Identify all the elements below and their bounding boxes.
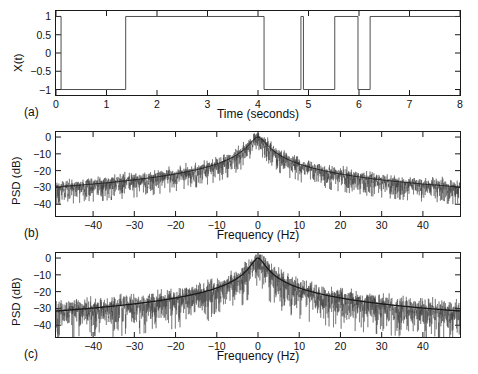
b-ytick-2: −20 [21,166,51,177]
b-xtick-8: 40 [403,220,443,231]
panel-b-psd-trace [56,132,460,216]
panel-a-y-axis-label: X(t) [12,53,24,72]
c-xtick-1: −30 [114,341,154,352]
c-xtick-0: −40 [73,341,113,352]
panel-b-plot-frame [55,131,461,217]
c-ytick-0: −40 [21,320,51,331]
b-ytick-3: −10 [21,149,51,160]
a-ytick-3: 0.5 [21,30,51,41]
panel-c-x-axis-label: Frequency (Hz) [158,349,358,363]
b-xtick-0: −40 [73,220,113,231]
panel-a-plot-frame [55,10,461,96]
figure-root: −1−0.500.51 012345678 X(t) Time (seconds… [0,0,478,374]
panel-c-label: (c) [24,347,38,361]
panel-a-label: (a) [24,105,39,119]
panel-b-label: (b) [24,226,39,240]
a-xtick-1: 1 [87,99,127,110]
c-ytick-3: −10 [21,270,51,281]
c-xtick-8: 40 [403,341,443,352]
a-ytick-2: 0 [21,48,51,59]
a-xtick-0: 0 [36,99,76,110]
panel-b-x-axis-label: Frequency (Hz) [158,228,358,242]
a-ytick-4: 1 [21,11,51,22]
c-ytick-2: −20 [21,287,51,298]
a-ytick-0: −1 [21,85,51,96]
panel-a-x-axis-label: Time (seconds) [158,107,358,121]
panel-c-plot-frame [55,252,461,338]
panel-a-signal-trace [56,11,460,95]
a-ytick-1: −0.5 [21,66,51,77]
b-xtick-1: −30 [114,220,154,231]
a-xtick-7: 7 [390,99,430,110]
b-ytick-0: −40 [21,199,51,210]
panel-c-psd-trace [56,253,460,337]
b-ytick-4: 0 [21,132,51,143]
panel-c-y-axis-label: PSD (dB) [10,277,22,326]
panel-b-y-axis-label: PSD (dB) [10,156,22,205]
b-ytick-1: −30 [21,182,51,193]
a-xtick-8: 8 [440,99,478,110]
b-xtick-7: 30 [362,220,402,231]
c-ytick-1: −30 [21,303,51,314]
c-ytick-4: 0 [21,253,51,264]
c-xtick-7: 30 [362,341,402,352]
